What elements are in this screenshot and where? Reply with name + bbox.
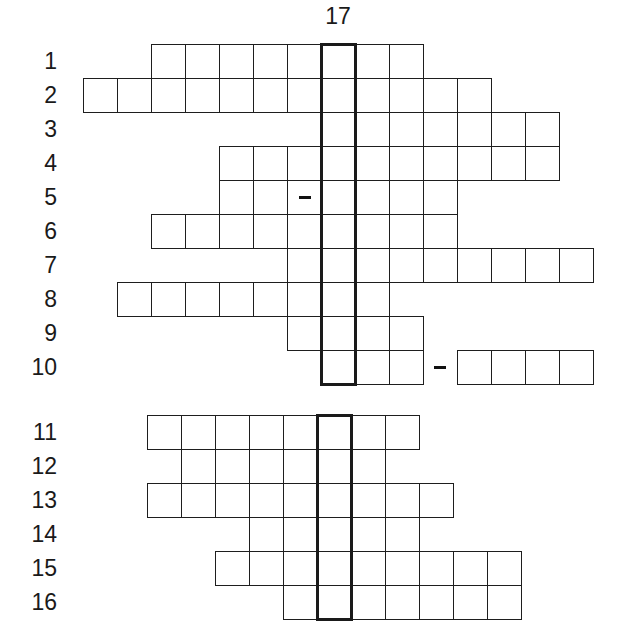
keyword-cell[interactable] <box>321 146 356 181</box>
letter-cell[interactable] <box>351 551 386 586</box>
letter-cell[interactable] <box>151 214 186 249</box>
letter-cell[interactable] <box>525 350 560 385</box>
letter-cell[interactable] <box>117 282 152 317</box>
keyword-cell[interactable] <box>317 483 352 518</box>
letter-cell[interactable] <box>181 483 216 518</box>
letter-cell[interactable] <box>423 112 458 147</box>
letter-cell[interactable] <box>253 146 288 181</box>
letter-cell[interactable] <box>351 449 386 484</box>
keyword-cell[interactable] <box>317 449 352 484</box>
letter-cell[interactable] <box>185 282 220 317</box>
letter-cell[interactable] <box>389 316 424 351</box>
letter-cell[interactable] <box>389 78 424 113</box>
letter-cell[interactable] <box>389 248 424 283</box>
letter-cell[interactable] <box>355 282 390 317</box>
letter-cell[interactable] <box>287 316 322 351</box>
letter-cell[interactable] <box>215 449 250 484</box>
letter-cell[interactable] <box>117 78 152 113</box>
letter-cell[interactable] <box>355 180 390 215</box>
letter-cell[interactable] <box>287 214 322 249</box>
letter-cell[interactable] <box>287 44 322 79</box>
letter-cell[interactable] <box>283 517 318 552</box>
letter-cell[interactable] <box>419 551 454 586</box>
letter-cell[interactable] <box>287 146 322 181</box>
letter-cell[interactable] <box>249 551 284 586</box>
letter-cell[interactable] <box>283 449 318 484</box>
letter-cell[interactable] <box>185 78 220 113</box>
letter-cell[interactable] <box>491 146 526 181</box>
letter-cell[interactable] <box>453 551 488 586</box>
letter-cell[interactable] <box>287 78 322 113</box>
letter-cell[interactable] <box>385 517 420 552</box>
letter-cell[interactable] <box>385 415 420 450</box>
letter-cell[interactable] <box>283 551 318 586</box>
letter-cell[interactable] <box>355 214 390 249</box>
letter-cell[interactable] <box>283 483 318 518</box>
letter-cell[interactable] <box>355 78 390 113</box>
letter-cell[interactable] <box>491 248 526 283</box>
letter-cell[interactable] <box>351 517 386 552</box>
letter-cell[interactable] <box>185 214 220 249</box>
keyword-cell[interactable] <box>321 282 356 317</box>
letter-cell[interactable] <box>385 483 420 518</box>
letter-cell[interactable] <box>355 44 390 79</box>
letter-cell[interactable] <box>423 78 458 113</box>
letter-cell[interactable] <box>457 146 492 181</box>
letter-cell[interactable] <box>249 449 284 484</box>
letter-cell[interactable] <box>355 112 390 147</box>
letter-cell[interactable] <box>219 44 254 79</box>
letter-cell[interactable] <box>491 112 526 147</box>
letter-cell[interactable] <box>487 551 522 586</box>
keyword-cell[interactable] <box>317 551 352 586</box>
letter-cell[interactable] <box>389 350 424 385</box>
letter-cell[interactable] <box>219 180 254 215</box>
keyword-cell[interactable] <box>321 180 356 215</box>
letter-cell[interactable] <box>249 517 284 552</box>
letter-cell[interactable] <box>419 483 454 518</box>
letter-cell[interactable] <box>389 146 424 181</box>
letter-cell[interactable] <box>385 551 420 586</box>
letter-cell[interactable] <box>253 282 288 317</box>
letter-cell[interactable] <box>253 44 288 79</box>
letter-cell[interactable] <box>83 78 118 113</box>
keyword-cell[interactable] <box>321 350 356 385</box>
letter-cell[interactable] <box>351 415 386 450</box>
letter-cell[interactable] <box>249 483 284 518</box>
letter-cell[interactable] <box>423 248 458 283</box>
letter-cell[interactable] <box>253 180 288 215</box>
letter-cell[interactable] <box>389 180 424 215</box>
letter-cell[interactable] <box>423 180 458 215</box>
letter-cell[interactable] <box>151 44 186 79</box>
letter-cell[interactable] <box>283 415 318 450</box>
letter-cell[interactable] <box>219 282 254 317</box>
keyword-cell[interactable] <box>317 415 352 450</box>
letter-cell[interactable] <box>219 214 254 249</box>
letter-cell[interactable] <box>419 585 454 620</box>
letter-cell[interactable] <box>355 350 390 385</box>
keyword-cell[interactable] <box>321 78 356 113</box>
letter-cell[interactable] <box>219 146 254 181</box>
letter-cell[interactable] <box>253 78 288 113</box>
keyword-cell[interactable] <box>317 585 352 620</box>
letter-cell[interactable] <box>287 282 322 317</box>
letter-cell[interactable] <box>559 350 594 385</box>
letter-cell[interactable] <box>491 350 526 385</box>
letter-cell[interactable] <box>525 112 560 147</box>
letter-cell[interactable] <box>525 146 560 181</box>
letter-cell[interactable] <box>355 248 390 283</box>
letter-cell[interactable] <box>457 350 492 385</box>
letter-cell[interactable] <box>287 248 322 283</box>
letter-cell[interactable] <box>423 146 458 181</box>
letter-cell[interactable] <box>355 146 390 181</box>
letter-cell[interactable] <box>215 415 250 450</box>
letter-cell[interactable] <box>389 44 424 79</box>
letter-cell[interactable] <box>351 483 386 518</box>
letter-cell[interactable] <box>457 78 492 113</box>
letter-cell[interactable] <box>457 248 492 283</box>
letter-cell[interactable] <box>249 415 284 450</box>
letter-cell[interactable] <box>151 282 186 317</box>
letter-cell[interactable] <box>389 112 424 147</box>
letter-cell[interactable] <box>457 112 492 147</box>
keyword-cell[interactable] <box>321 44 356 79</box>
letter-cell[interactable] <box>253 214 288 249</box>
